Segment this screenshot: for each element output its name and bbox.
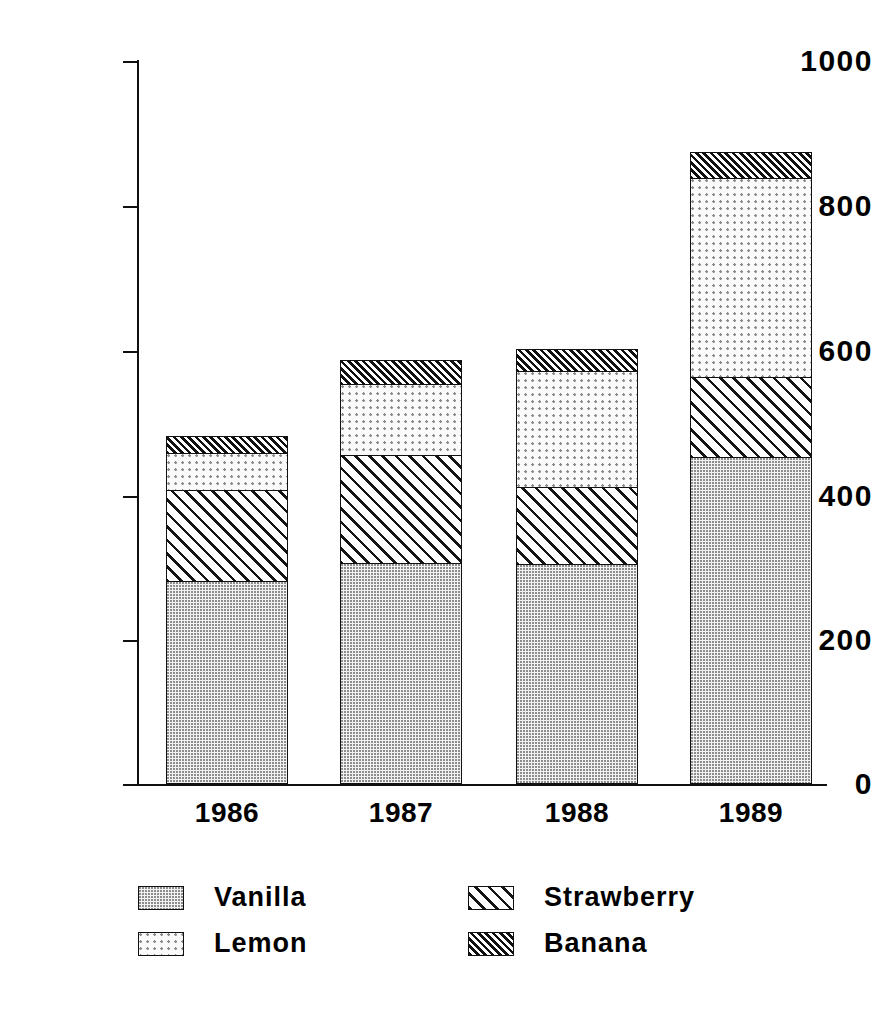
legend-swatch-vanilla-icon bbox=[138, 886, 184, 910]
x-tick-label-1989: 1989 bbox=[671, 799, 831, 827]
bar-1989-segment-banana bbox=[690, 152, 812, 180]
bar-1988-segment-vanilla bbox=[516, 564, 638, 784]
bar-1987-segment-strawberry bbox=[340, 455, 462, 565]
bar-1989-segment-strawberry bbox=[690, 377, 812, 459]
legend-label-banana: Banana bbox=[544, 930, 648, 957]
legend-item-vanilla[interactable]: Vanilla bbox=[138, 884, 307, 911]
bar-1989-segment-lemon bbox=[690, 178, 812, 379]
bar-1987-segment-banana bbox=[340, 360, 462, 386]
legend: Vanilla Lemon Strawberry Banana bbox=[138, 884, 838, 984]
y-tick-0 bbox=[123, 784, 138, 786]
legend-swatch-strawberry-icon bbox=[468, 886, 514, 910]
x-tick-label-1986: 1986 bbox=[147, 799, 307, 827]
bar-1987[interactable] bbox=[340, 360, 462, 784]
y-tick-400 bbox=[123, 496, 138, 498]
bar-1986[interactable] bbox=[166, 436, 288, 784]
y-tick-600 bbox=[123, 351, 138, 353]
x-axis-line bbox=[137, 784, 827, 786]
stacked-bar-chart: 1000 800 600 400 200 0 bbox=[0, 0, 873, 1017]
bar-1986-segment-lemon bbox=[166, 453, 288, 492]
plot-area: 1000 800 600 400 200 0 bbox=[0, 0, 873, 1017]
bar-1989-segment-vanilla bbox=[690, 457, 812, 784]
bar-1989[interactable] bbox=[690, 152, 812, 784]
legend-item-strawberry[interactable]: Strawberry bbox=[468, 884, 695, 911]
legend-item-lemon[interactable]: Lemon bbox=[138, 930, 308, 957]
legend-label-vanilla: Vanilla bbox=[214, 884, 307, 911]
y-tick-800 bbox=[123, 206, 138, 208]
bar-1988-segment-strawberry bbox=[516, 487, 638, 566]
bar-1987-segment-vanilla bbox=[340, 563, 462, 784]
bar-1986-segment-strawberry bbox=[166, 490, 288, 583]
y-tick-1000 bbox=[123, 61, 138, 63]
legend-swatch-banana-icon bbox=[468, 932, 514, 956]
y-tick-label-1000: 1000 bbox=[765, 46, 873, 76]
x-tick-label-1988: 1988 bbox=[497, 799, 657, 827]
y-tick-200 bbox=[123, 640, 138, 642]
bar-1986-segment-vanilla bbox=[166, 581, 288, 784]
bar-1988-segment-lemon bbox=[516, 371, 638, 489]
x-tick-label-1987: 1987 bbox=[321, 799, 481, 827]
legend-label-strawberry: Strawberry bbox=[544, 884, 695, 911]
legend-label-lemon: Lemon bbox=[214, 930, 308, 957]
bar-1987-segment-lemon bbox=[340, 384, 462, 457]
legend-item-banana[interactable]: Banana bbox=[468, 930, 648, 957]
bar-1988-segment-banana bbox=[516, 349, 638, 373]
legend-swatch-lemon-icon bbox=[138, 932, 184, 956]
bar-1988[interactable] bbox=[516, 349, 638, 784]
y-axis-line bbox=[137, 60, 139, 786]
